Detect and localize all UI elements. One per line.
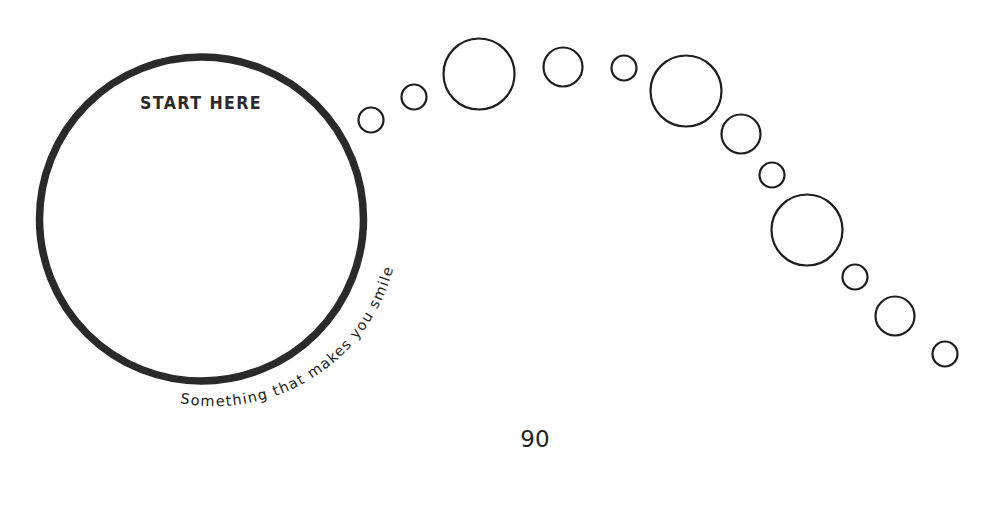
- worksheet-page: Something that makes you smile START HER…: [0, 0, 1006, 519]
- start-here-heading: START HERE: [128, 92, 274, 113]
- bubble-7: [722, 115, 761, 154]
- bubble-11: [876, 297, 915, 336]
- bubble-10: [843, 265, 868, 290]
- bubble-1: [359, 108, 384, 133]
- circle-caption: Something that makes you smile: [179, 264, 396, 410]
- bubble-6: [651, 56, 722, 127]
- bubble-12: [933, 342, 958, 367]
- bubble-trail: [359, 39, 958, 367]
- bubble-4: [544, 48, 583, 87]
- bubble-2: [402, 85, 427, 110]
- bubble-9: [772, 195, 843, 266]
- page-number: 90: [505, 426, 565, 452]
- bubble-8: [760, 163, 785, 188]
- bubble-5: [612, 56, 637, 81]
- worksheet-artwork: Something that makes you smile: [0, 0, 1006, 519]
- bubble-3: [444, 39, 515, 110]
